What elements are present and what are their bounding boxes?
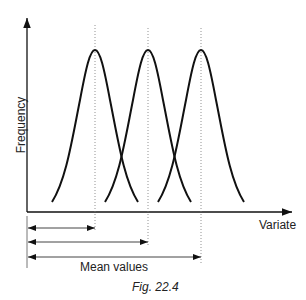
figure-caption: Fig. 22.4 — [132, 280, 179, 294]
diagram-graphic — [0, 0, 306, 300]
mean-values-label: Mean values — [80, 260, 148, 274]
curve-3 — [158, 50, 244, 202]
figure: Frequency Variate Mean values Fig. 22.4 — [0, 0, 306, 300]
curve-2 — [105, 50, 191, 202]
curve-1 — [52, 50, 138, 202]
y-axis-label: Frequency — [14, 90, 28, 160]
x-axis-label: Variate — [259, 218, 296, 232]
